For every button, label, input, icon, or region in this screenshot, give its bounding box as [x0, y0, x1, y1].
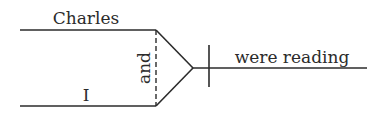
subject-word-bottom: I	[83, 85, 90, 105]
predicate-word: were reading	[235, 47, 350, 67]
join-diagonal-bottom	[156, 68, 193, 106]
conjunction-word: and	[134, 52, 154, 84]
sentence-diagram: Charles I and were reading	[0, 0, 380, 116]
join-diagonal-top	[156, 30, 193, 68]
subject-word-top: Charles	[53, 8, 119, 28]
